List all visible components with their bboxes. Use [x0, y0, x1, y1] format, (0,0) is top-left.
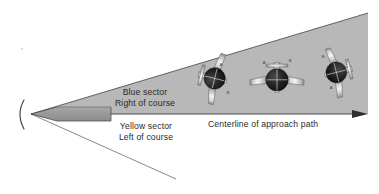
blue-sector-region — [31, 13, 368, 114]
aircraft-left-mark-b: B — [227, 90, 230, 95]
dust-speck-icon — [21, 48, 23, 50]
centerline-label: Centerline of approach path — [208, 119, 318, 129]
aircraft-center-mark-b: B — [289, 58, 292, 63]
runway — [31, 107, 111, 121]
yellow-sector-line1: Yellow sector — [120, 121, 172, 131]
aircraft-right-mark-b: B — [322, 54, 325, 59]
aircraft-right-label-b: B — [322, 54, 325, 59]
blue-sector-line1: Blue sector — [123, 87, 168, 97]
blue-sector-line2: Right of course — [115, 98, 175, 108]
centerline-label-group: Centerline of approach path — [208, 119, 318, 129]
diagram-canvas: A B A B B A Blue sector Right of course — [0, 0, 379, 194]
yellow-sector-line2: Left of course — [119, 132, 173, 142]
aircraft-right-label-a: A — [330, 85, 333, 90]
localizer-antenna-icon — [20, 100, 24, 129]
aircraft-left-mark-a: A — [220, 62, 223, 67]
aircraft-center-label-a: A — [263, 60, 266, 65]
ils-sector-diagram: A B A B B A Blue sector Right of course — [0, 0, 379, 194]
blue-sector-label: Blue sector Right of course — [115, 87, 175, 108]
yellow-sector-label: Yellow sector Left of course — [119, 121, 173, 142]
aircraft-left-label-b: B — [227, 90, 230, 95]
aircraft-center-mark-a: A — [263, 60, 266, 65]
aircraft-center-label-b: B — [289, 58, 292, 63]
aircraft-left-label-a: A — [220, 62, 223, 67]
aircraft-right-mark-a: A — [330, 85, 333, 90]
